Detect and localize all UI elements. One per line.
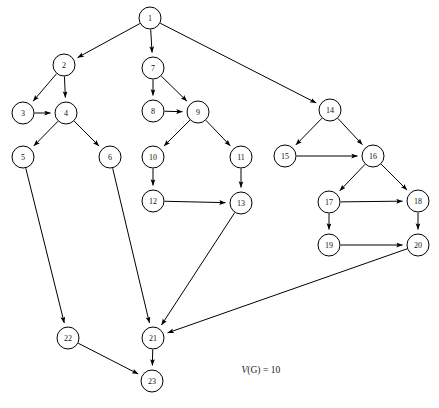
graph-figure: 1234567891011121314151617181920212223 V(… [0,0,439,408]
node-label-18: 18 [414,197,422,206]
caption-metric-arg: (G) [247,365,260,375]
node-label-11: 11 [237,153,245,162]
node-label-9: 9 [196,108,200,117]
graph-edge-1-to-14 [160,23,316,103]
graph-node-2[interactable]: 2 [53,54,75,76]
graph-node-17[interactable]: 17 [318,191,340,213]
node-label-6: 6 [108,153,112,162]
node-label-12: 12 [149,197,157,206]
graph-edge-17-to-18 [341,201,403,202]
graph-node-15[interactable]: 15 [274,145,296,167]
graph-edge-14-to-15 [296,118,322,145]
graph-node-4[interactable]: 4 [55,102,77,124]
node-label-10: 10 [149,153,157,162]
graph-edge-5-to-22 [26,168,64,323]
graph-node-19[interactable]: 19 [318,234,340,256]
graph-edge-14-to-16 [338,118,363,144]
graph-edge-22-to-23 [78,343,138,374]
graph-edge-2-to-4 [64,76,65,97]
graph-node-9[interactable]: 9 [187,101,209,123]
graph-node-22[interactable]: 22 [57,327,79,349]
graph-edge-1-to-2 [78,24,140,58]
complexity-caption: V(G) = 10 [232,355,280,385]
node-label-22: 22 [64,334,72,343]
graph-node-6[interactable]: 6 [99,146,121,168]
node-label-8: 8 [151,107,155,116]
graph-edge-16-to-18 [381,164,407,190]
graph-node-23[interactable]: 23 [141,370,163,392]
graph-canvas: 1234567891011121314151617181920212223 [0,0,439,408]
caption-value: 10 [271,365,281,375]
graph-node-5[interactable]: 5 [12,146,34,168]
graph-node-12[interactable]: 12 [142,190,164,212]
graph-node-1[interactable]: 1 [139,7,161,29]
graph-edge-4-to-5 [34,121,58,146]
node-label-15: 15 [281,152,289,161]
nodes-layer: 1234567891011121314151617181920212223 [12,7,429,392]
graph-edge-12-to-13 [165,201,226,202]
node-label-1: 1 [148,14,152,23]
graph-node-20[interactable]: 20 [407,234,429,256]
node-label-5: 5 [21,153,25,162]
caption-equals: = [261,365,271,375]
node-label-20: 20 [414,241,422,250]
graph-edge-4-to-6 [74,121,99,146]
graph-node-11[interactable]: 11 [230,146,252,168]
graph-node-18[interactable]: 18 [407,190,429,212]
graph-edge-7-to-9 [161,76,187,101]
graph-edge-6-to-21 [113,168,150,323]
graph-node-8[interactable]: 8 [142,100,164,122]
graph-node-21[interactable]: 21 [142,327,164,349]
graph-edge-13-to-21 [161,213,234,325]
graph-node-3[interactable]: 3 [12,102,34,124]
node-label-13: 13 [237,199,245,208]
graph-edge-20-to-21 [168,249,408,333]
graph-edge-16-to-17 [340,164,365,190]
node-label-23: 23 [148,377,156,386]
node-label-19: 19 [325,241,333,250]
node-label-2: 2 [62,61,66,70]
graph-node-7[interactable]: 7 [142,57,164,79]
node-label-17: 17 [325,198,333,207]
graph-node-16[interactable]: 16 [362,145,384,167]
graph-edge-9-to-11 [206,120,230,145]
node-label-4: 4 [64,109,68,118]
node-label-3: 3 [21,109,25,118]
node-label-14: 14 [326,106,334,115]
node-label-7: 7 [151,64,155,73]
edges-layer [26,23,418,374]
graph-edge-1-to-7 [151,29,152,52]
graph-edge-2-to-3 [33,74,56,101]
graph-node-14[interactable]: 14 [319,99,341,121]
graph-edge-9-to-10 [164,120,190,146]
node-label-16: 16 [369,152,377,161]
graph-node-13[interactable]: 13 [230,192,252,214]
graph-node-10[interactable]: 10 [142,146,164,168]
node-label-21: 21 [149,334,157,343]
